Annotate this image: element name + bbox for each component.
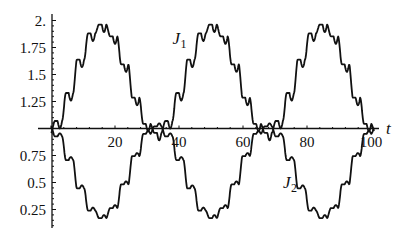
series-line-j2 [51, 123, 374, 218]
series-label-j1: J1 [173, 29, 187, 51]
y-tick-label: 1.5 [27, 67, 46, 83]
x-tick-labels: 20406080100 [108, 134, 383, 150]
y-tick-label: 0.5 [27, 175, 46, 191]
x-axis-label: t [386, 119, 392, 138]
plot-area [51, 25, 374, 219]
y-tick-label: 0.75 [20, 148, 46, 164]
y-tick-label: 2. [35, 13, 46, 29]
series-label-j2: J2 [283, 173, 297, 195]
y-tick-label: 1.25 [20, 94, 46, 110]
y-tick-label: 0.25 [20, 202, 46, 218]
chart: 20406080100 2.1.751.51.250.750.50.25 t J… [0, 0, 413, 237]
series-line-j1 [51, 25, 374, 141]
x-tick-label: 40 [172, 134, 187, 150]
y-tick-labels: 2.1.751.51.250.750.50.25 [20, 13, 46, 218]
series-label-subscript: 2 [291, 181, 297, 195]
x-tick-label: 20 [108, 134, 123, 150]
x-tick-label: 80 [300, 134, 315, 150]
y-tick-label: 1.75 [20, 40, 46, 56]
series-labels: J1J2 [173, 29, 297, 195]
x-tick-label: 100 [360, 134, 383, 150]
x-tick-label: 60 [236, 134, 251, 150]
axes: 20406080100 2.1.751.51.250.750.50.25 t [20, 13, 392, 229]
series-label-subscript: 1 [181, 37, 187, 51]
